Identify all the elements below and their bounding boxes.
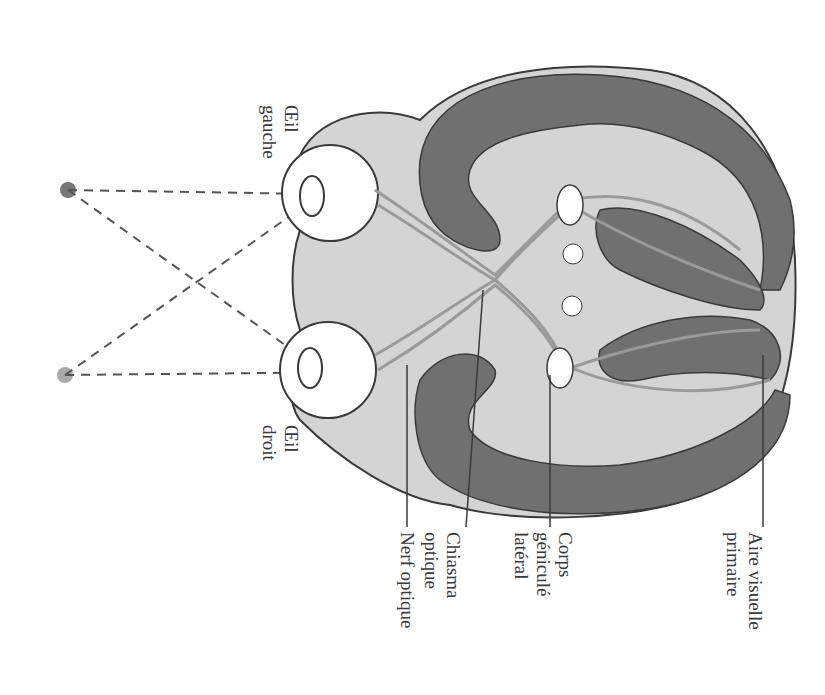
label-line: optique	[420, 532, 442, 599]
label-line: Nerf optique	[396, 532, 418, 629]
label-nerf-optique: Nerf optique	[396, 532, 418, 629]
left-eye	[282, 145, 378, 241]
lgn-right	[547, 348, 573, 388]
label-chiasma-optique: Chiasma optique	[420, 532, 464, 599]
right-eye	[280, 322, 376, 418]
midbrain-dot-lower	[562, 296, 582, 316]
label-oeil-gauche: Œil gauche	[258, 105, 302, 159]
label-line: Œil	[280, 105, 302, 159]
label-line: Œil	[280, 425, 302, 461]
label-line: Chiasma	[442, 532, 464, 599]
label-line: Aire visuelle	[744, 532, 766, 630]
label-line: droit	[258, 425, 280, 461]
lgn-left	[557, 185, 583, 225]
label-line: Corps	[554, 532, 576, 596]
label-line: primaire	[722, 532, 744, 630]
label-line: latéral	[510, 532, 532, 596]
label-aire-visuelle-primaire: Aire visuelle primaire	[722, 532, 766, 630]
label-corps-genicule-lateral: Corps géniculé latéral	[510, 532, 576, 596]
label-oeil-droit: Œil droit	[258, 425, 302, 461]
label-line: géniculé	[532, 532, 554, 596]
label-line: gauche	[258, 105, 280, 159]
midbrain-dot-upper	[563, 244, 583, 264]
